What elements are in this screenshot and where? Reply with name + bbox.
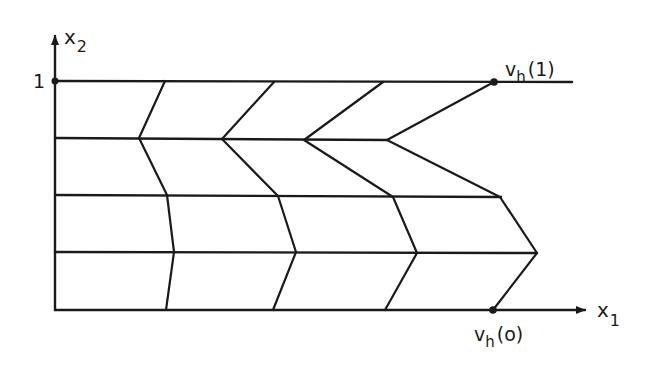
vh-0-label: vh(o) [474, 323, 523, 351]
y-axis-label: x2 [64, 25, 87, 56]
point-vh-0 [489, 306, 497, 314]
point-vh-1 [490, 78, 498, 86]
y-tick-label: 1 [33, 70, 45, 92]
point-origin-top [52, 78, 59, 85]
mesh-diagram: x2 1 x1 vh(1) vh(o) [0, 0, 653, 369]
x-axis-label: x1 [597, 298, 620, 330]
